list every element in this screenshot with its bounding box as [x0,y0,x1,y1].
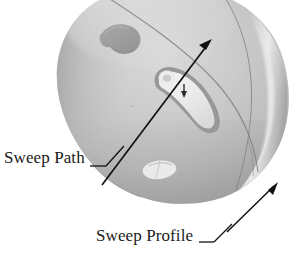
shell-grain-overlay [50,0,300,220]
helmet-body [50,0,300,220]
helmet-illustration [0,0,300,257]
leader-sweep-profile [199,224,232,242]
label-sweep-path: Sweep Path [4,148,85,168]
figure-canvas: Sweep Path Sweep Profile [0,0,300,257]
label-sweep-profile: Sweep Profile [96,226,193,246]
